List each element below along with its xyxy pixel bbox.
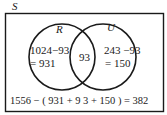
r-only-expression: 1024−93 [30, 45, 69, 56]
intersection-value: 93 [79, 52, 90, 63]
set-u-label: U [107, 22, 115, 33]
u-only-expression: 243 −93 [104, 45, 140, 56]
outside-equation: 1556 − ( 931 + 9 3 + 150 ) = 382 [10, 96, 148, 107]
set-r-label: R [56, 24, 63, 35]
u-only-value: = 150 [105, 58, 130, 69]
r-only-value: = 931 [30, 58, 55, 69]
universe-label: S [12, 1, 18, 12]
